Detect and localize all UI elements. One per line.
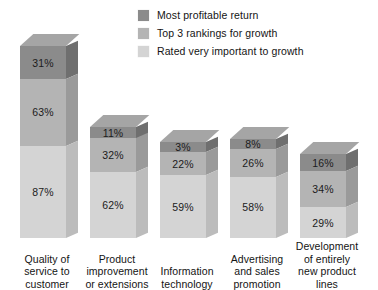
bar-segment[interactable]: 32%	[90, 138, 136, 172]
stacked-bar[interactable]: 8%26%58%	[230, 139, 276, 238]
bar-segment[interactable]: 59%	[160, 175, 206, 238]
bar-segment[interactable]: 62%	[90, 172, 136, 238]
stacked-bar[interactable]: 31%63%87%	[20, 46, 66, 238]
category-label-line: Product	[74, 253, 160, 265]
bar-segment-value: 59%	[160, 201, 206, 213]
bar-segment[interactable]: 63%	[20, 79, 66, 146]
bar-segment[interactable]: 58%	[230, 177, 276, 238]
bar-segment-value: 58%	[230, 201, 276, 213]
bar-segment[interactable]: 26%	[230, 149, 276, 177]
stacked-bar[interactable]: 3%22%59%	[160, 142, 206, 238]
chart-root: Most profitable return Top 3 rankings fo…	[0, 0, 378, 290]
bar-segment[interactable]: 29%	[300, 207, 346, 238]
bar-segment[interactable]: 8%	[230, 139, 276, 149]
bar-segment-side-face	[206, 170, 218, 238]
bar-segment-side-face	[66, 74, 78, 146]
bar-segment[interactable]: 34%	[300, 171, 346, 207]
bar-segment-value: 16%	[300, 157, 346, 169]
bar-segment-value: 29%	[300, 217, 346, 229]
bar-segment-value: 63%	[20, 106, 66, 118]
bar-segment[interactable]: 16%	[300, 154, 346, 171]
bar-segment-value: 22%	[160, 158, 206, 170]
bar-segment-side-face	[136, 167, 148, 238]
bar-segment[interactable]: 3%	[160, 142, 206, 152]
bar-segment[interactable]: 11%	[90, 127, 136, 139]
bar-segment-value: 62%	[90, 199, 136, 211]
bar-segment[interactable]: 87%	[20, 146, 66, 238]
bar-segment-side-face	[346, 202, 358, 238]
plot-area: 31%63%87%Quality ofservice tocustomer11%…	[0, 0, 378, 290]
category-label-line: of entirely	[284, 253, 370, 265]
bar-segment-value: 32%	[90, 149, 136, 161]
bar-segment[interactable]: 22%	[160, 152, 206, 175]
bar-segment-value: 34%	[300, 183, 346, 195]
bar-segment-value: 26%	[230, 157, 276, 169]
bar-segment-value: 87%	[20, 186, 66, 198]
category-label: Developmentof entirelynew productlines	[284, 240, 370, 290]
stacked-bar[interactable]: 16%34%29%	[300, 154, 346, 238]
category-label-line: new product	[284, 265, 370, 277]
category-label-line: Development	[284, 240, 370, 252]
bar-segment[interactable]: 31%	[20, 46, 66, 79]
stacked-bar[interactable]: 11%32%62%	[90, 127, 136, 238]
bar-segment-side-face	[276, 171, 288, 238]
bar-segment-value: 31%	[20, 57, 66, 69]
category-label-line: lines	[284, 278, 370, 290]
bar-segment-value: 11%	[90, 127, 136, 139]
bar-segment-side-face	[66, 140, 78, 238]
